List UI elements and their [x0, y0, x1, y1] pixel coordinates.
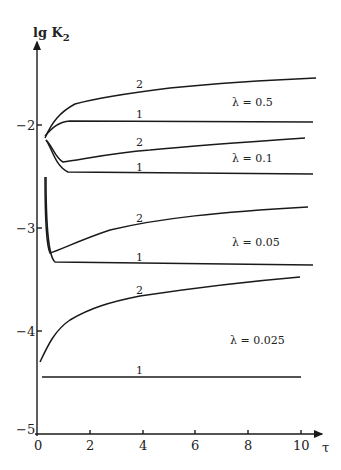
x-tick-label: 4: [139, 438, 147, 453]
series-lambda-0.5: [45, 78, 316, 138]
svg-text:1: 1: [136, 251, 143, 264]
x-tick-label: 6: [191, 438, 199, 453]
x-axis-label: τ: [322, 440, 329, 455]
x-tick-label: 10: [293, 438, 310, 453]
curve-1: [45, 121, 313, 136]
y-ticks: −2 −3 −4 −5: [16, 118, 42, 437]
x-tick-label: 2: [86, 438, 94, 453]
curve-1: [46, 177, 313, 265]
y-tick-label: −5: [16, 422, 35, 437]
svg-text:1: 1: [136, 108, 143, 121]
lambda-label: λ = 0.025: [230, 334, 285, 347]
curve-labels: 2 1 2 1 2 1 2 1: [136, 78, 143, 377]
y-tick-label: −4: [16, 324, 35, 339]
y-tick-label: −2: [16, 118, 35, 133]
x-tick-label: 0: [34, 438, 42, 453]
chart: −2 −3 −4 −5 0 2 4 6 8 10 lg K2 τ: [0, 0, 341, 470]
svg-text:1: 1: [136, 161, 143, 174]
series-lambda-0.1: [46, 138, 313, 174]
lambda-label: λ = 0.5: [232, 96, 273, 109]
svg-text:2: 2: [136, 78, 143, 91]
curve-2: [45, 78, 316, 138]
svg-text:1: 1: [136, 364, 143, 377]
x-tick-label: 8: [244, 438, 252, 453]
lambda-labels: λ = 0.5 λ = 0.1 λ = 0.05 λ = 0.025: [230, 96, 285, 347]
svg-text:2: 2: [136, 136, 143, 149]
y-tick-label: −3: [16, 221, 35, 236]
svg-text:2: 2: [136, 284, 143, 297]
svg-text:2: 2: [136, 212, 143, 225]
series-lambda-0.025: [40, 277, 301, 377]
y-axis-label: lg K2: [33, 25, 70, 43]
lambda-label: λ = 0.05: [232, 236, 280, 249]
curve-2: [40, 277, 300, 362]
lambda-label: λ = 0.1: [232, 152, 273, 165]
series-lambda-0.05: [45, 177, 313, 265]
curve-1: [46, 140, 313, 174]
